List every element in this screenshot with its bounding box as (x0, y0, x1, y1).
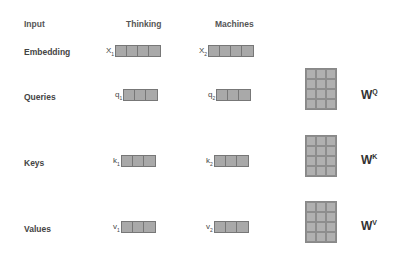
vector-label: v1 (113, 222, 120, 233)
header-thinking: Thinking (126, 19, 161, 29)
weight-label-v: WV (361, 219, 377, 233)
vector-x2: X2 (199, 45, 254, 57)
weight-label-k: WK (361, 153, 377, 167)
vector-label: X2 (199, 46, 207, 57)
vector-k1: k1 (113, 155, 156, 167)
vector-k2: k2 (206, 155, 249, 167)
vector-label: k1 (113, 156, 120, 167)
vector-label: X1 (106, 46, 114, 57)
vector-q2: q2 (208, 89, 251, 101)
vector-label: k2 (206, 156, 213, 167)
weight-matrix-v (305, 201, 337, 243)
vector-q1: q1 (115, 89, 158, 101)
row-label-keys: Keys (24, 158, 44, 168)
attention-diagram: Input Thinking Machines Embedding X1 X2 … (0, 0, 393, 260)
header-input: Input (24, 19, 45, 29)
row-label-values: Values (24, 224, 51, 234)
vector-label: q1 (115, 90, 122, 101)
weight-matrix-q (305, 68, 337, 110)
vector-v1: v1 (113, 221, 156, 233)
weight-matrix-k (305, 135, 337, 177)
vector-x1: X1 (106, 45, 161, 57)
row-label-queries: Queries (24, 92, 56, 102)
weight-label-q: WQ (361, 88, 378, 102)
row-label-embedding: Embedding (24, 47, 70, 57)
header-machines: Machines (215, 19, 254, 29)
vector-label: q2 (208, 90, 215, 101)
vector-v2: v2 (206, 221, 249, 233)
vector-label: v2 (206, 222, 213, 233)
